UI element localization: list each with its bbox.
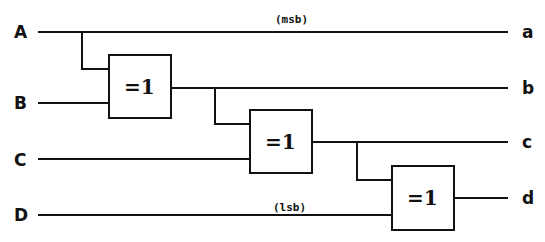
output-label-d: d — [522, 188, 534, 208]
output-label-c: c — [522, 132, 532, 152]
xor-gate-3: =1 — [392, 166, 454, 230]
gate-2-symbol: =1 — [265, 130, 296, 154]
xor-gate-1: =1 — [109, 55, 171, 118]
input-label-d: D — [14, 205, 28, 225]
msb-note: (msb) — [275, 13, 308, 26]
input-label-a: A — [14, 22, 28, 42]
gate-1-symbol: =1 — [124, 75, 155, 99]
wire-b-to-gate2 — [215, 88, 250, 124]
circuit-diagram: A B C D a b c d (msb) (lsb) =1 =1 =1 — [0, 0, 545, 242]
xor-gate-2: =1 — [250, 110, 312, 173]
wire-a-to-gate1 — [82, 32, 109, 69]
lsb-note: (lsb) — [273, 201, 306, 214]
wire-c-to-gate3 — [357, 142, 392, 180]
input-label-c: C — [14, 150, 26, 170]
output-label-a: a — [522, 22, 533, 42]
gate-3-symbol: =1 — [407, 186, 438, 210]
output-label-b: b — [522, 78, 534, 98]
input-label-b: B — [14, 93, 27, 113]
